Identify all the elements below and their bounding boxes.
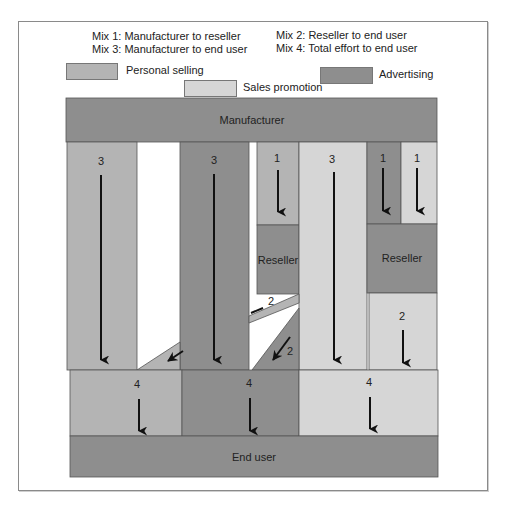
col1-mix-number: 3 [98, 155, 104, 167]
manufacturer-label: Manufacturer [220, 114, 285, 126]
total-mid-mix-number: 4 [246, 377, 252, 389]
reseller-personal-selling-band-lower [137, 342, 180, 370]
col5-mix-number: 1 [380, 152, 386, 164]
reseller-left-lower-mix-number: 2 [287, 345, 293, 357]
total-left-mix-number: 4 [134, 378, 140, 390]
col3-mix-number: 1 [274, 152, 280, 164]
flow-diagram: Manufacturer Reseller Reseller End user … [0, 0, 505, 515]
reseller-left-label: Reseller [258, 254, 299, 266]
total-personal-selling [70, 370, 182, 436]
reseller-right-label: Reseller [382, 252, 423, 264]
total-right-mix-number: 4 [366, 376, 372, 388]
reseller-left-upper-mix-number: 2 [268, 295, 274, 307]
col2-mix-number: 3 [211, 154, 217, 166]
col4-mix-number: 3 [329, 153, 335, 165]
reseller-right-mix-number: 2 [399, 310, 405, 322]
col6-mix-number: 1 [414, 152, 420, 164]
end-user-label: End user [232, 451, 276, 463]
total-advertising [182, 370, 299, 436]
